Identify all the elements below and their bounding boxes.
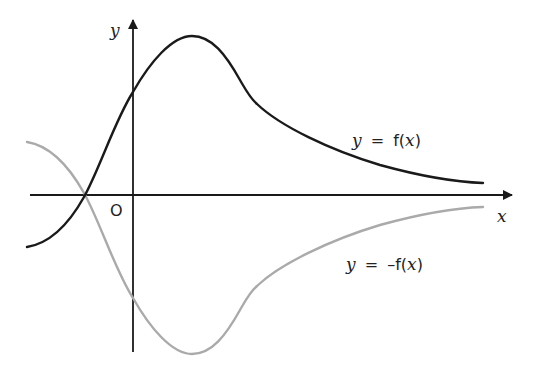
label-f-var: x xyxy=(405,130,415,150)
label-f-y: y xyxy=(351,130,362,150)
label-negf-close: ) xyxy=(417,255,423,274)
label-negf-eq: = xyxy=(365,255,378,274)
label-f-close: ) xyxy=(415,131,421,150)
label-neg-f: y = –f(x) xyxy=(345,254,423,274)
origin-label: O xyxy=(110,201,123,220)
function-reflection-diagram: y x O y = f(x) y = –f(x) xyxy=(0,0,537,379)
label-negf-fn: –f( xyxy=(387,255,407,274)
label-f-fn: f( xyxy=(393,131,405,150)
label-negf-var: x xyxy=(407,254,417,274)
y-axis-label: y xyxy=(109,20,120,40)
label-negf-y: y xyxy=(345,254,356,274)
label-f-eq: = xyxy=(371,131,384,150)
x-axis-label: x xyxy=(497,206,507,226)
label-f: y = f(x) xyxy=(351,130,421,150)
